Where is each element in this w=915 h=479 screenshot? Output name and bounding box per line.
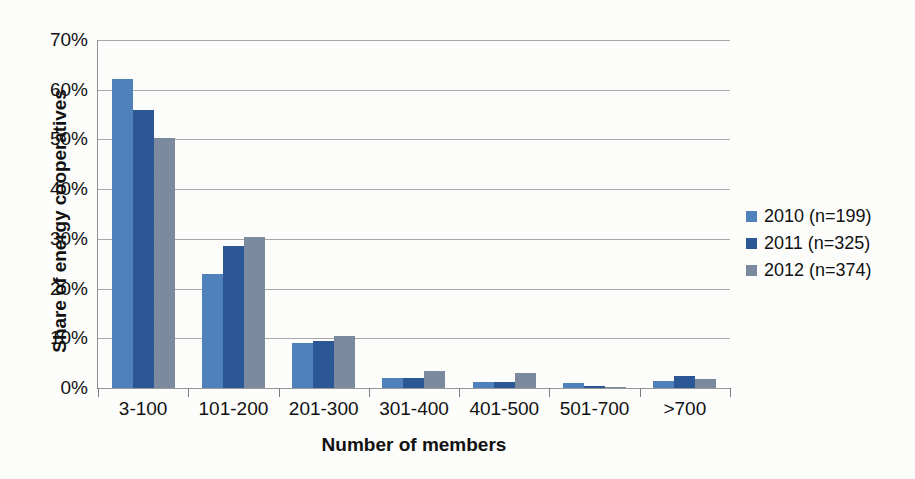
bar-group: [188, 40, 278, 388]
bar: [133, 110, 154, 388]
bar: [202, 274, 223, 388]
bar: [154, 138, 175, 388]
x-tick-mark: [98, 388, 99, 397]
legend-item[interactable]: 2012 (n=374): [746, 257, 911, 284]
bar: [244, 237, 265, 388]
x-tick-mark: [640, 388, 641, 397]
legend-swatch-icon: [746, 211, 757, 222]
x-axis-title: Number of members: [98, 434, 730, 456]
x-tick-label: 3-100: [119, 398, 168, 420]
bar-group: [369, 40, 459, 388]
bar: [653, 381, 674, 388]
plot-area: [98, 40, 730, 388]
y-tick-label: 70%: [8, 29, 88, 51]
x-axis-labels: 3-100101-200201-300301-400401-500501-700…: [98, 398, 730, 428]
bar-group: [459, 40, 549, 388]
bar: [292, 343, 313, 388]
y-tick-label: 60%: [8, 79, 88, 101]
y-tick-label: 30%: [8, 228, 88, 250]
bar: [382, 378, 403, 388]
y-tick-label: 10%: [8, 327, 88, 349]
bar: [223, 246, 244, 388]
bar-group: [549, 40, 639, 388]
legend-label: 2011 (n=325): [764, 233, 870, 254]
x-axis-ticks: [98, 388, 730, 398]
bar: [695, 379, 716, 388]
bar-group: [640, 40, 730, 388]
bar: [313, 341, 334, 388]
legend-item[interactable]: 2011 (n=325): [746, 230, 911, 257]
bar-chart-figure: Share of energy cooperatives 0%10%20%30%…: [0, 0, 915, 479]
x-tick-mark: [549, 388, 550, 397]
bar: [403, 378, 424, 388]
y-tick-label: 40%: [8, 178, 88, 200]
bar: [424, 371, 445, 388]
bar: [112, 79, 133, 388]
x-tick-label: >700: [663, 398, 706, 420]
x-tick-mark: [279, 388, 280, 397]
x-tick-mark: [369, 388, 370, 397]
y-tick-label: 50%: [8, 128, 88, 150]
bar-group: [98, 40, 188, 388]
x-tick-label: 301-400: [379, 398, 449, 420]
y-tick-label: 0%: [8, 377, 88, 399]
x-tick-label: 101-200: [199, 398, 269, 420]
y-axis-ticks: 0%10%20%30%40%50%60%70%: [0, 40, 88, 388]
legend-item[interactable]: 2010 (n=199): [746, 203, 911, 230]
legend-swatch-icon: [746, 238, 757, 249]
bar: [674, 376, 695, 388]
chart-legend: 2010 (n=199)2011 (n=325)2012 (n=374): [746, 203, 911, 284]
x-tick-mark: [459, 388, 460, 397]
bar: [515, 373, 536, 388]
bar-group: [279, 40, 369, 388]
x-tick-label: 201-300: [289, 398, 359, 420]
x-tick-mark: [188, 388, 189, 397]
bar: [334, 336, 355, 388]
y-tick-label: 20%: [8, 278, 88, 300]
legend-swatch-icon: [746, 265, 757, 276]
x-tick-mark: [730, 388, 731, 397]
x-tick-label: 401-500: [469, 398, 539, 420]
legend-label: 2012 (n=374): [764, 260, 872, 281]
x-tick-label: 501-700: [560, 398, 630, 420]
legend-label: 2010 (n=199): [764, 206, 872, 227]
